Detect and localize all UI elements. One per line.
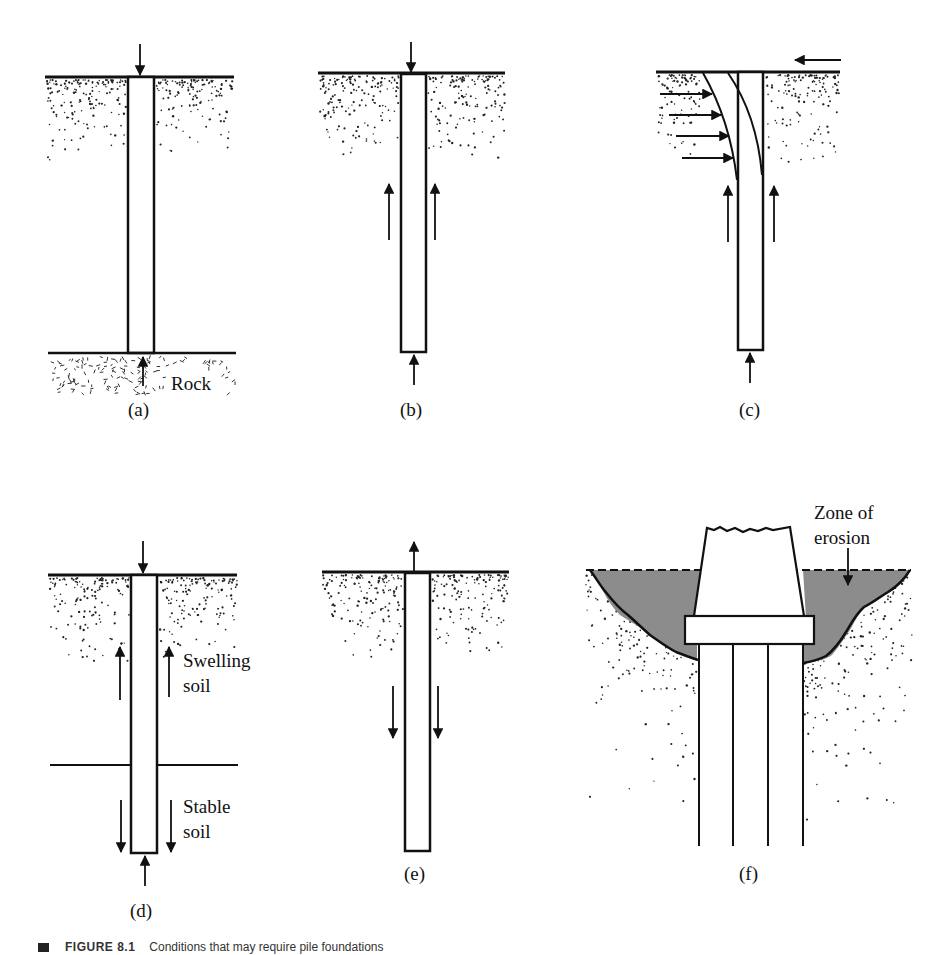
soil-dot: [388, 603, 390, 605]
soil-dot: [496, 75, 498, 77]
soil-dot: [879, 695, 881, 697]
soil-dot: [680, 706, 682, 708]
soil-dot: [489, 579, 491, 581]
soil-dot: [77, 597, 79, 599]
soil-dot: [325, 91, 327, 93]
soil-dot: [108, 82, 110, 84]
soil-dot: [451, 76, 453, 78]
soil-dot: [193, 104, 195, 106]
soil-dot: [49, 578, 51, 580]
soil-dot: [637, 656, 639, 658]
soil-dot: [895, 720, 897, 722]
soil-dot: [814, 77, 816, 79]
soil-dot: [691, 74, 693, 76]
soil-dot: [329, 79, 331, 81]
soil-dot: [180, 626, 182, 628]
soil-dot: [93, 107, 95, 109]
soil-dot: [503, 93, 505, 95]
soil-dot: [485, 586, 487, 588]
soil-dot: [91, 615, 93, 617]
soil-dot: [864, 658, 865, 659]
soil-dot: [667, 723, 669, 725]
soil-dot: [116, 82, 118, 84]
soil-dot: [826, 126, 828, 128]
soil-dot: [198, 79, 200, 81]
soil-dot: [502, 579, 504, 581]
soil-dot: [498, 87, 500, 89]
soil-dot: [473, 628, 475, 630]
soil-dot: [191, 579, 193, 581]
caption-marker-icon: [38, 943, 49, 952]
soil-dot: [181, 81, 183, 83]
rock-hatch-mark: [102, 368, 105, 371]
rock-hatch-mark: [82, 360, 83, 364]
soil-dot: [457, 590, 459, 592]
soil-dot: [94, 591, 96, 593]
soil-dot: [201, 79, 203, 81]
soil-dot: [196, 639, 198, 641]
soil-dot: [219, 615, 221, 617]
soil-dot: [340, 600, 341, 601]
soil-dot: [356, 605, 358, 607]
soil-dot: [504, 102, 506, 104]
soil-dot: [449, 575, 451, 577]
soil-dot: [669, 143, 670, 144]
soil-dot: [57, 610, 59, 612]
soil-dot: [189, 614, 191, 616]
soil-dot: [468, 637, 470, 639]
soil-dot: [359, 577, 361, 579]
soil-dot: [393, 641, 395, 643]
soil-dot: [693, 778, 695, 780]
soil-dot: [482, 594, 484, 596]
soil-dot: [75, 79, 77, 81]
soil-dot: [685, 83, 687, 85]
soil-dot: [844, 694, 846, 696]
soil-dot: [826, 719, 828, 721]
soil-dot: [125, 106, 127, 108]
soil-dot: [824, 89, 826, 91]
soil-dot: [866, 662, 868, 664]
soil-dot: [838, 92, 840, 94]
soil-dot: [370, 649, 372, 651]
rock-hatch-mark: [60, 383, 61, 386]
soil-dot: [118, 578, 119, 579]
soil-dot: [890, 653, 892, 655]
soil-dot: [791, 95, 793, 97]
soil-dot: [375, 142, 377, 144]
soil-dot: [361, 99, 363, 101]
soil-dot: [226, 595, 228, 597]
soil-dot: [165, 82, 167, 84]
soil-dot: [625, 630, 627, 632]
soil-dot: [331, 574, 333, 576]
soil-dot: [202, 84, 204, 86]
soil-dot: [173, 641, 175, 643]
soil-dot: [361, 89, 363, 91]
soil-dot: [612, 614, 614, 616]
soil-dot: [323, 577, 325, 579]
soil-dot: [449, 616, 451, 618]
soil-dot: [168, 603, 169, 604]
soil-dot: [840, 645, 842, 647]
panel-label-f: (f): [739, 863, 758, 885]
soil-dot: [168, 108, 170, 110]
soil-dot: [397, 577, 399, 579]
soil-dot: [483, 601, 485, 603]
soil-dot: [220, 120, 222, 122]
rock-hatch-mark: [131, 372, 134, 374]
soil-dot: [172, 80, 174, 82]
soil-dot: [682, 141, 684, 143]
soil-dot: [329, 579, 331, 581]
soil-dot: [890, 601, 892, 603]
soil-dot: [184, 81, 186, 83]
soil-dot: [172, 107, 174, 109]
soil-dot: [852, 654, 854, 656]
soil-dot: [233, 619, 235, 621]
soil-dot: [356, 578, 358, 580]
soil-dot: [79, 86, 81, 88]
soil-dot: [462, 76, 464, 78]
soil-dot: [451, 595, 453, 597]
soil-dot: [196, 91, 198, 93]
swelling-soil-label-2: soil: [183, 675, 210, 696]
soil-dot: [374, 126, 376, 128]
soil-dot: [359, 586, 361, 588]
